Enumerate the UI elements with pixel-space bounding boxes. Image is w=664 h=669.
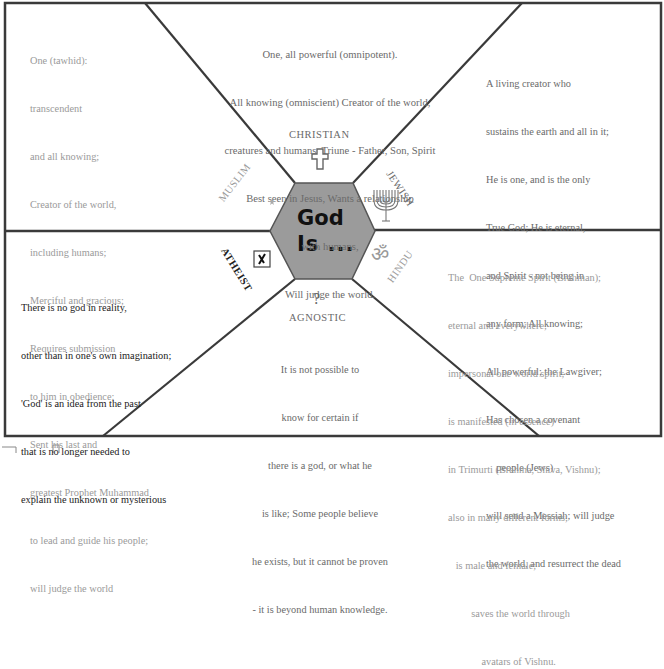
agnostic-description: It is not possible to know for certain i… xyxy=(220,330,420,634)
agnostic-line: - it is beyond human knowledge. xyxy=(220,602,420,618)
atheist-line: other than in one's own imagination; xyxy=(21,348,171,364)
hindu-description: The One Supreme Spirit (Brahman); eterna… xyxy=(448,238,601,669)
atheist-line: explain the unknown or mysterious xyxy=(21,492,171,508)
christian-line: One, all powerful (omnipotent). xyxy=(180,47,480,63)
hindu-line: The One Supreme Spirit (Brahman); xyxy=(448,270,601,286)
christian-line: creatures and humans. Triune - Father, S… xyxy=(180,143,480,159)
christian-description: One, all powerful (omnipotent). All know… xyxy=(180,15,480,319)
hindu-line: impersonal one world spirit; xyxy=(448,366,601,382)
jewish-line: True God; He is eternal, xyxy=(486,220,621,236)
muslim-line: One (tawhid): xyxy=(30,53,149,69)
christian-line: Will judge the world. xyxy=(180,287,480,303)
agnostic-label: AGNOSTIC xyxy=(289,312,346,323)
agnostic-line: know for certain if xyxy=(220,410,420,426)
agnostic-line: It is not possible to xyxy=(220,362,420,378)
atheist-description: There is no god in reality, other than i… xyxy=(21,268,171,524)
muslim-line: and all knowing; xyxy=(30,149,149,165)
menorah-icon xyxy=(372,188,400,224)
atheist-line: There is no god in reality, xyxy=(21,300,171,316)
muslim-line: to lead and guide his people; xyxy=(30,533,149,549)
om-icon: ॐ xyxy=(371,244,389,264)
muslim-line: will judge the world xyxy=(30,581,149,597)
atheist-line: 'God' is an idea from the past xyxy=(21,396,171,412)
hindu-line: saves the world through xyxy=(448,606,601,622)
hindu-line: in Trimurti (Brahma, Shiva, Vishnu); xyxy=(448,462,601,478)
hindu-line: avatars of Vishnu. xyxy=(448,654,601,669)
atheist-line: that is no longer needed to xyxy=(21,444,171,460)
jewish-line: He is one, and is the only xyxy=(486,172,621,188)
cross-icon xyxy=(311,148,329,170)
question-mark-icon: ? xyxy=(313,290,320,308)
jewish-line: sustains the earth and all in it; xyxy=(486,124,621,140)
hindu-line: eternal and everywhere; xyxy=(448,318,601,334)
agnostic-line: is like; Some people believe xyxy=(220,506,420,522)
muslim-line: including humans; xyxy=(30,245,149,261)
corner-mark-icon xyxy=(2,447,16,453)
muslim-line: Creator of the world, xyxy=(30,197,149,213)
agnostic-line: there is a god, or what he xyxy=(220,458,420,474)
muslim-line: transcendent xyxy=(30,101,149,117)
x-box-icon xyxy=(253,250,271,268)
christian-line: All knowing (omniscient) Creator of the … xyxy=(180,95,480,111)
hindu-line: also in many different forms; xyxy=(448,510,601,526)
agnostic-line: he exists, but it cannot be proven xyxy=(220,554,420,570)
jewish-line: A living creator who xyxy=(486,76,621,92)
christian-label: CHRISTIAN xyxy=(289,129,350,140)
hindu-line: is manifested (in essence) xyxy=(448,414,601,430)
crescent-star-icon xyxy=(252,189,278,215)
hindu-line: is male and female; xyxy=(448,558,601,574)
